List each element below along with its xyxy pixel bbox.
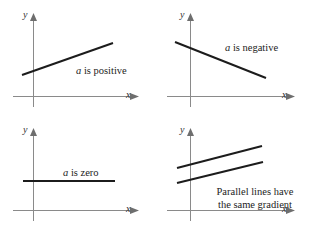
x-axis-arrowhead-icon (286, 93, 295, 100)
panel-positive-gradient: x y a is positive (0, 0, 160, 115)
panel-parallel-lines: x y Parallel lines have the same gradien… (160, 115, 320, 230)
caption-text: is zero (68, 167, 98, 178)
caption-parallel-line1: Parallel lines have (196, 185, 314, 198)
panel-negative-gradient: x y a is negative (160, 0, 320, 115)
caption-parallel-line2: the same gradient (196, 198, 314, 211)
caption-negative: a is negative (225, 41, 278, 54)
x-axis-label: x (126, 204, 130, 214)
y-axis-label: y (180, 10, 184, 20)
y-axis-arrowhead-icon (30, 128, 37, 136)
y-axis-arrowhead-icon (187, 128, 194, 136)
x-axis-arrowhead-icon (130, 207, 139, 214)
x-axis-label: x (282, 90, 286, 100)
y-axis-arrowhead-icon (30, 13, 37, 21)
y-axis-label: y (180, 125, 184, 135)
caption-zero: a is zero (63, 166, 99, 179)
x-axis-label: x (126, 90, 130, 100)
panel-zero-gradient: x y a is zero (0, 115, 160, 230)
caption-text: is negative (230, 42, 278, 53)
y-axis-label: y (23, 125, 27, 135)
x-axis-arrowhead-icon (130, 93, 139, 100)
y-axis-label: y (23, 10, 27, 20)
caption-text: is positive (81, 65, 127, 76)
y-axis-arrowhead-icon (187, 13, 194, 21)
caption-parallel: Parallel lines have the same gradient (196, 185, 314, 211)
caption-positive: a is positive (76, 64, 127, 77)
gradient-illustrations-figure: x y a is positive x y a is negative x y … (0, 0, 320, 230)
